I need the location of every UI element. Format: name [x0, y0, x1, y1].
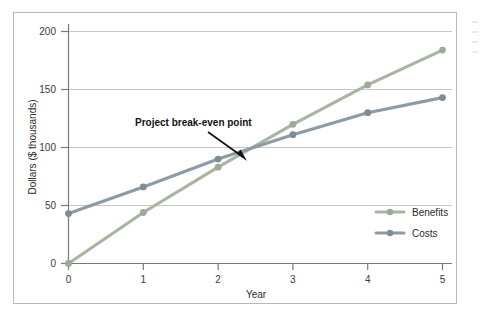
page-edge-marks [472, 22, 478, 52]
y-tick-label-50: 50 [45, 200, 57, 211]
legend-label-benefits: Benefits [412, 207, 448, 218]
legend-swatch-benefits [376, 209, 404, 215]
legend-swatch-costs [376, 230, 404, 236]
x-axis-title: Year [246, 289, 267, 300]
y-axis-title: Dollars ($ thousands) [27, 99, 38, 194]
breakeven-annotation-label: Project break-even point [135, 117, 252, 128]
series-markers-costs [65, 94, 446, 217]
x-tick-label-4: 4 [365, 274, 371, 285]
y-tick-marks [61, 32, 68, 264]
x-tick-label-5: 5 [440, 274, 446, 285]
gridlines [68, 32, 452, 206]
legend: Benefits Costs [376, 207, 448, 239]
series-line-costs [69, 98, 443, 214]
x-tick-label-1: 1 [141, 274, 147, 285]
x-tick-label-3: 3 [290, 274, 296, 285]
chart-figure: 200 150 100 50 0 0 1 2 3 4 5 Year Dollar… [0, 0, 482, 324]
y-tick-label-100: 100 [39, 142, 56, 153]
y-tick-label-150: 150 [39, 84, 56, 95]
y-tick-label-200: 200 [39, 26, 56, 37]
line-chart-plot: 200 150 100 50 0 0 1 2 3 4 5 Year Dollar… [0, 0, 482, 324]
x-tick-marks [69, 264, 443, 271]
series-line-benefits [69, 50, 443, 263]
y-tick-label-0: 0 [50, 258, 56, 269]
x-tick-label-0: 0 [66, 274, 72, 285]
x-tick-label-2: 2 [215, 274, 221, 285]
legend-label-costs: Costs [412, 228, 438, 239]
